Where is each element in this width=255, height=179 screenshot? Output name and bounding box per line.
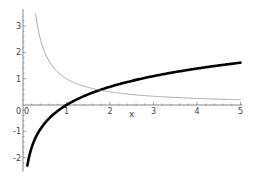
origin-x-label: 0: [24, 107, 29, 116]
y-tick-label: -1: [13, 127, 21, 136]
y-tick-label: 2: [16, 48, 21, 57]
x-tick-label: 3: [151, 107, 156, 116]
x-tick-label: 2: [107, 107, 112, 116]
y-tick-label: -2: [13, 154, 21, 163]
tick-labels: 12345-2-112300x: [13, 22, 243, 163]
y-tick-label: 1: [16, 75, 21, 84]
x-tick-label: 4: [194, 107, 199, 116]
y-tick-label: 3: [16, 22, 21, 31]
axes: [23, 9, 243, 172]
reciprocal-curve: [36, 14, 241, 99]
chart-plot-area: 12345-2-112300x: [0, 0, 255, 179]
x-tick-label: 5: [238, 107, 243, 116]
curves: [27, 14, 240, 165]
x-tick-label: 1: [64, 107, 69, 116]
origin-y-label: 0: [16, 107, 21, 116]
x-axis-label: x: [129, 109, 135, 119]
